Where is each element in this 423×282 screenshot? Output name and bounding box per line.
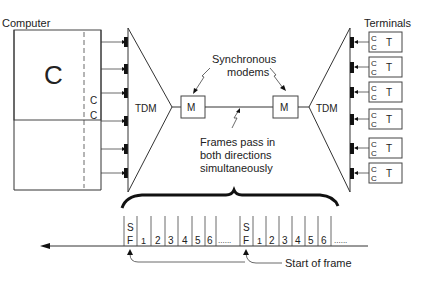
svg-text:C: C bbox=[371, 165, 377, 174]
svg-text:C: C bbox=[371, 111, 377, 120]
terminal-5: C C T bbox=[350, 163, 402, 183]
svg-text:......: ...... bbox=[218, 236, 231, 245]
port-icon bbox=[124, 64, 128, 74]
terminal-1: C C T bbox=[350, 57, 402, 77]
svg-text:C: C bbox=[371, 59, 377, 68]
terminal-4: C C T bbox=[350, 138, 402, 158]
tdm-left-label: TDM bbox=[135, 103, 157, 114]
terminal-2: C C T bbox=[350, 82, 402, 102]
svg-text:1: 1 bbox=[141, 236, 146, 246]
svg-text:C: C bbox=[371, 120, 377, 129]
lightning-arrow-icon bbox=[232, 110, 239, 128]
sf-top: S bbox=[127, 222, 134, 233]
computer-channels bbox=[101, 37, 128, 178]
svg-text:C: C bbox=[371, 174, 377, 183]
svg-text:C: C bbox=[371, 68, 377, 77]
port-icon bbox=[124, 116, 128, 126]
arrow-left-icon bbox=[40, 243, 50, 249]
frames-line1: Frames pass in bbox=[200, 136, 275, 148]
brace bbox=[122, 190, 338, 208]
modem-right-label: M bbox=[280, 102, 288, 113]
svg-text:1: 1 bbox=[257, 236, 262, 246]
sync-modems-line2: modems bbox=[227, 66, 270, 78]
tdm-right: TDM bbox=[309, 28, 350, 192]
start-pointer-left bbox=[130, 254, 245, 262]
tdm-left: TDM bbox=[128, 28, 172, 192]
port-icon bbox=[124, 37, 128, 47]
svg-text:6: 6 bbox=[321, 235, 327, 246]
channel-c1: C bbox=[90, 95, 97, 106]
computer-core-label: C bbox=[44, 60, 63, 90]
start-pointer-right bbox=[246, 254, 282, 263]
svg-text:3: 3 bbox=[168, 235, 174, 246]
terminal-3: C C T bbox=[350, 109, 402, 129]
terminal-0: C C T bbox=[350, 32, 402, 52]
channel-c2: C bbox=[90, 110, 97, 121]
svg-text:T: T bbox=[386, 114, 392, 125]
svg-text:T: T bbox=[386, 37, 392, 48]
svg-text:2: 2 bbox=[269, 235, 275, 246]
sf-bottom: F bbox=[127, 235, 133, 246]
sync-modems-line1: Synchronous bbox=[212, 53, 277, 65]
start-of-frame-label: Start of frame bbox=[285, 257, 352, 269]
svg-text:C: C bbox=[371, 84, 377, 93]
svg-text:2: 2 bbox=[155, 235, 161, 246]
svg-text:T: T bbox=[386, 143, 392, 154]
frames-line3: simultaneously bbox=[200, 162, 273, 174]
terminals-label: Terminals bbox=[364, 17, 412, 29]
svg-text:4: 4 bbox=[182, 235, 188, 246]
lightning-arrow-icon bbox=[270, 68, 283, 88]
svg-text:C: C bbox=[371, 149, 377, 158]
frames-line2: both directions bbox=[200, 149, 272, 161]
svg-text:C: C bbox=[371, 140, 377, 149]
svg-text:S: S bbox=[243, 222, 250, 233]
svg-text:T: T bbox=[386, 168, 392, 179]
port-icon bbox=[124, 88, 128, 98]
tdm-diagram: Computer C C C TDM M M Synchronous modem… bbox=[0, 0, 423, 282]
modem-left-label: M bbox=[187, 102, 195, 113]
svg-text:C: C bbox=[371, 93, 377, 102]
svg-text:C: C bbox=[371, 43, 377, 52]
svg-text:T: T bbox=[386, 87, 392, 98]
svg-text:4: 4 bbox=[295, 235, 301, 246]
tdm-right-label: TDM bbox=[316, 103, 338, 114]
svg-text:6: 6 bbox=[207, 235, 213, 246]
frame-timeline: S F 1 2 3 4 5 6 ...... S F 1 2 3 4 5 6 .… bbox=[40, 216, 368, 249]
svg-text:......: ...... bbox=[334, 236, 347, 245]
svg-text:5: 5 bbox=[308, 235, 314, 246]
port-icon bbox=[124, 168, 128, 178]
svg-text:3: 3 bbox=[282, 235, 288, 246]
port-icon bbox=[124, 144, 128, 154]
svg-text:F: F bbox=[243, 235, 249, 246]
svg-text:5: 5 bbox=[195, 235, 201, 246]
computer-label: Computer bbox=[2, 17, 51, 29]
svg-text:T: T bbox=[386, 62, 392, 73]
lightning-arrow-icon bbox=[195, 68, 210, 91]
svg-text:C: C bbox=[371, 34, 377, 43]
